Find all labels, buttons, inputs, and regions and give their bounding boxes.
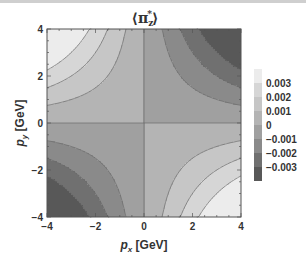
legend-label: 0.002 (266, 92, 291, 103)
legend-label: −0.002 (266, 148, 297, 159)
title-close: ⟩ (152, 10, 158, 26)
y-tick-label: −2 (32, 165, 44, 176)
legend-swatch (254, 69, 262, 83)
x-tick-label: −4 (41, 221, 53, 232)
x-tick-label: −2 (90, 221, 102, 232)
y-tick-label: −4 (32, 212, 44, 223)
legend-swatch (254, 125, 262, 139)
y-tick-label: 2 (37, 71, 43, 82)
title-text: ⟨π (132, 10, 149, 26)
legend-swatch (254, 83, 262, 97)
legend-label: 0 (266, 120, 272, 131)
x-axis-label: px [GeV] (119, 238, 167, 254)
x-tick-label: 0 (141, 221, 147, 232)
legend-swatch (254, 139, 262, 153)
x-tick-label: 4 (238, 221, 244, 232)
legend-label: −0.001 (266, 134, 297, 145)
x-tick-label: 2 (190, 221, 196, 232)
y-tick-label: 0 (37, 118, 43, 129)
y-axis-label: py [GeV] (13, 99, 29, 147)
chart-title: ⟨πz*⟩ (0, 9, 290, 28)
legend-label: 0.001 (266, 106, 291, 117)
legend: 0.0030.0020.0010−0.001−0.002−0.003 (254, 69, 297, 181)
legend-swatch (254, 167, 262, 181)
contour-plot: −4−2024420−2−4px [GeV]py [GeV]0.0030.002… (0, 0, 306, 260)
legend-swatch (254, 97, 262, 111)
legend-swatch (254, 153, 262, 167)
legend-label: 0.003 (266, 78, 291, 89)
legend-swatch (254, 111, 262, 125)
legend-label: −0.003 (266, 162, 297, 173)
